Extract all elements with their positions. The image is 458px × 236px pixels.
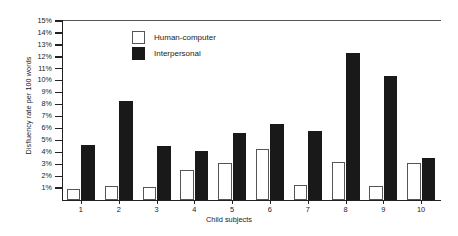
y-tick-label: 7% [0,111,52,120]
x-tick-mark [194,200,195,204]
x-tick-label: 2 [104,205,134,214]
y-tick-label: 6% [0,123,52,132]
bar-human-computer-subject-2 [105,186,119,200]
bar-human-computer-subject-4 [180,170,194,200]
filled-square-icon [132,47,145,60]
x-axis-title: Child subjects [0,215,458,224]
bar-interpersonal-subject-7 [308,131,322,200]
x-tick-label: 6 [255,205,285,214]
disfluency-rate-bar-chart: Disfluency rate per 100 words 1%2%3%4%5%… [0,0,458,236]
x-tick-label: 8 [331,205,361,214]
bar-interpersonal-subject-3 [157,146,171,200]
y-tick-label: 8% [0,99,52,108]
x-tick-mark [270,200,271,204]
bar-human-computer-subject-5 [218,163,232,200]
y-tick-label: 9% [0,87,52,96]
y-tick-label: 1% [0,183,52,192]
x-tick-label: 10 [406,205,436,214]
bar-interpersonal-subject-1 [81,145,95,200]
y-tick-label: 3% [0,159,52,168]
chart-legend: Human-computerInterpersonal [132,29,216,61]
plot-area [62,21,440,200]
bar-interpersonal-subject-6 [270,124,284,200]
legend-item-label: Interpersonal [154,49,201,58]
bar-interpersonal-subject-10 [422,158,436,200]
legend-item-label: Human-computer [154,33,216,42]
bar-interpersonal-subject-9 [384,76,398,200]
x-tick-label: 5 [217,205,247,214]
bar-interpersonal-subject-5 [233,133,247,200]
bar-interpersonal-subject-4 [195,151,209,200]
x-tick-mark [346,200,347,204]
x-tick-mark [81,200,82,204]
x-tick-mark [383,200,384,204]
x-tick-mark [119,200,120,204]
bar-human-computer-subject-7 [294,185,308,201]
bar-human-computer-subject-9 [369,186,383,200]
x-tick-label: 3 [142,205,172,214]
legend-item: Interpersonal [132,45,216,61]
x-tick-label: 9 [368,205,398,214]
x-tick-label: 4 [179,205,209,214]
legend-item: Human-computer [132,29,216,45]
hollow-square-icon [132,31,145,44]
y-tick-label: 10% [0,75,52,84]
y-tick-label: 12% [0,52,52,61]
bar-human-computer-subject-6 [256,149,270,200]
y-tick-label: 14% [0,28,52,37]
y-tick-label: 4% [0,147,52,156]
y-tick-label: 13% [0,40,52,49]
y-tick-label: 11% [0,64,52,73]
x-tick-mark [157,200,158,204]
bar-human-computer-subject-10 [407,163,421,200]
x-tick-mark [308,200,309,204]
bar-human-computer-subject-1 [67,189,81,200]
bar-human-computer-subject-3 [143,187,157,200]
x-tick-mark [232,200,233,204]
x-tick-label: 1 [66,205,96,214]
x-tick-label: 7 [293,205,323,214]
y-tick-label: 2% [0,171,52,180]
y-tick-label: 15% [0,16,52,25]
bar-interpersonal-subject-8 [346,53,360,200]
bar-interpersonal-subject-2 [119,101,133,200]
y-tick-label: 5% [0,135,52,144]
x-tick-mark [421,200,422,204]
bar-human-computer-subject-8 [332,162,346,200]
